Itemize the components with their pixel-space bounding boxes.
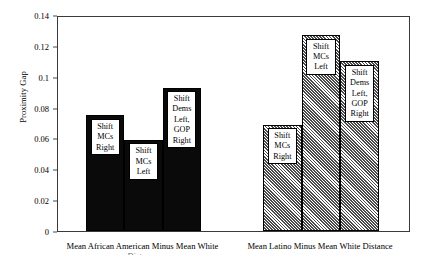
bar-annotation-group2-item3: Shift Dems Left, GOP Right [345, 65, 375, 122]
bar-annotation-group2-item1: Shift MCs Right [268, 128, 298, 164]
bar-annotation-group2-item2: Shift MCs Left [306, 39, 336, 75]
plot-area: Shift MCs RightShift MCs LeftShift Dems … [57, 16, 410, 232]
y-axis-tick-label: 0.06 [0, 135, 49, 144]
bar-annotation-group1-item1: Shift MCs Right [91, 119, 120, 155]
bar-annotation-group1-item2: Shift MCs Left [129, 143, 158, 179]
x-axis-caption-line1: Mean Latino Minus Mean White Distance [247, 241, 392, 251]
y-axis-tick-label: 0.08 [0, 104, 49, 113]
y-axis-title: Proximity Gap [18, 52, 28, 142]
y-axis-tick-label: 0.02 [0, 197, 49, 206]
y-axis-tick-label: 0.1 [0, 73, 49, 82]
y-axis-tick-label: 0.12 [0, 43, 49, 52]
y-axis-tick-label: 0 [0, 228, 49, 237]
y-axis-tick-label: 0.14 [0, 12, 49, 21]
bar-chart: Proximity Gap 00.020.040.060.080.10.120.… [0, 0, 430, 261]
x-axis-caption-line2: Distance [0, 251, 358, 255]
bar-annotation-group1-item3: Shift Dems Left, GOP Right [167, 91, 196, 148]
y-axis-tick-label: 0.04 [0, 166, 49, 175]
